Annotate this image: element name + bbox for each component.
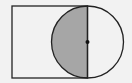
shaded-semicircle bbox=[52, 6, 88, 78]
center-point bbox=[86, 40, 90, 44]
geometry-diagram bbox=[0, 0, 132, 83]
